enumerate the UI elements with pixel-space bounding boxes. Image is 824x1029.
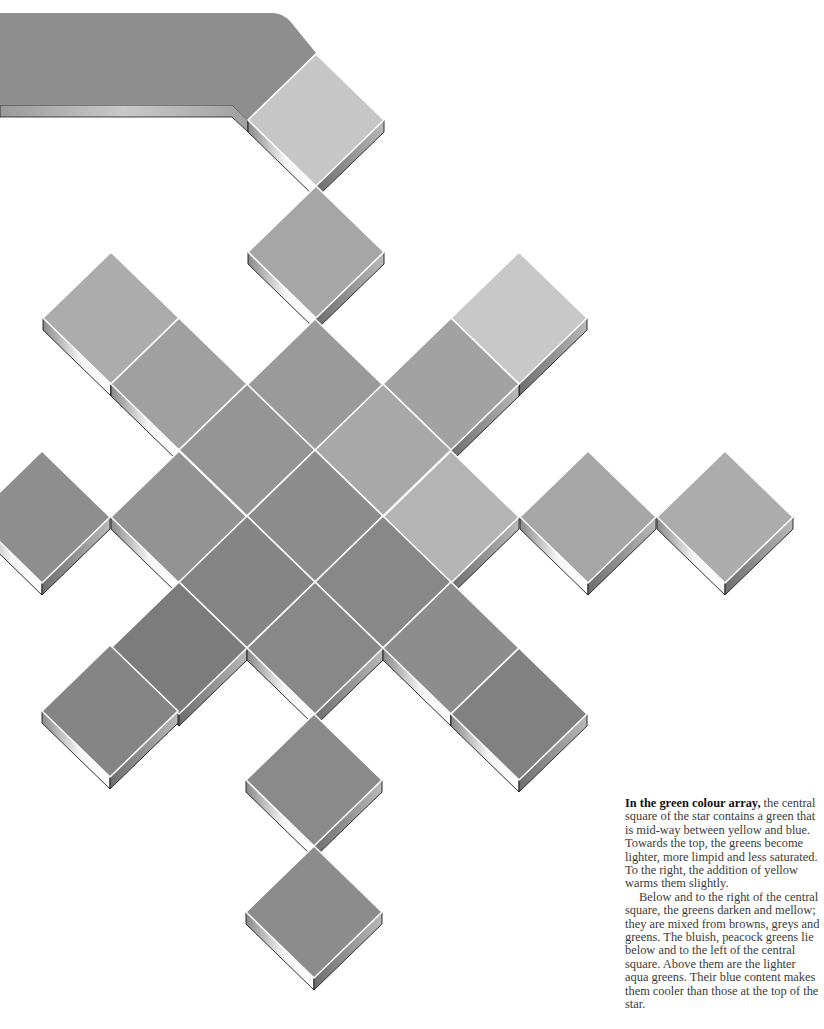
caption-paragraph-2: Below and to the right of the central sq… [625, 891, 821, 1012]
tile-e-3 [657, 451, 793, 583]
tile-upper [248, 186, 384, 318]
caption: In the green colour array, the central s… [625, 797, 821, 1012]
caption-paragraph-1-text: the central square of the star contains … [625, 796, 818, 890]
caption-lead: In the green colour array, [625, 796, 760, 810]
tile-e-2 [520, 451, 656, 583]
tile-bottom-2 [246, 846, 382, 978]
swatch-bar-side [0, 105, 248, 132]
tile-bottom-1 [246, 714, 382, 846]
caption-paragraph-1: In the green colour array, the central s… [625, 797, 821, 891]
